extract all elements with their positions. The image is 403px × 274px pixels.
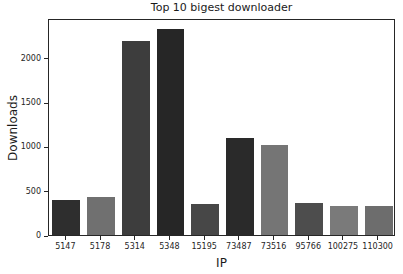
x-tick-mark <box>238 236 239 240</box>
bar-73516 <box>261 145 289 235</box>
bar-95766 <box>295 203 323 235</box>
y-tick-label-1000: 1000 <box>11 143 41 151</box>
bar-5314 <box>122 41 150 235</box>
x-tick-mark <box>134 236 135 240</box>
x-tick-mark <box>377 236 378 240</box>
y-tick-mark <box>44 236 48 237</box>
x-axis-label: IP <box>48 256 395 270</box>
y-tick-label-2000: 2000 <box>11 55 41 63</box>
y-axis-label: Downloads <box>6 68 20 188</box>
bar-73487 <box>226 138 254 235</box>
y-tick-mark <box>44 103 48 104</box>
bar-5178 <box>87 197 115 235</box>
x-tick-mark <box>100 236 101 240</box>
x-tick-mark <box>342 236 343 240</box>
bar-5147 <box>52 200 80 235</box>
bar-15195 <box>191 204 219 235</box>
y-tick-mark <box>44 58 48 59</box>
y-tick-mark <box>44 191 48 192</box>
y-tick-mark <box>44 147 48 148</box>
bar-100275 <box>330 206 358 235</box>
y-tick-label-0: 0 <box>11 232 41 240</box>
x-tick-label-110300: 110300 <box>353 243 403 251</box>
x-tick-mark <box>65 236 66 240</box>
bar-5348 <box>157 29 185 235</box>
y-tick-label-500: 500 <box>11 188 41 196</box>
bar-110300 <box>365 206 393 235</box>
figure: Top 10 bigest downloader Downloads 05001… <box>0 0 403 274</box>
x-tick-mark <box>308 236 309 240</box>
chart-title: Top 10 bigest downloader <box>48 1 395 14</box>
plot-area <box>48 19 395 236</box>
y-tick-label-1500: 1500 <box>11 99 41 107</box>
x-tick-mark <box>169 236 170 240</box>
x-tick-mark <box>204 236 205 240</box>
x-tick-mark <box>273 236 274 240</box>
